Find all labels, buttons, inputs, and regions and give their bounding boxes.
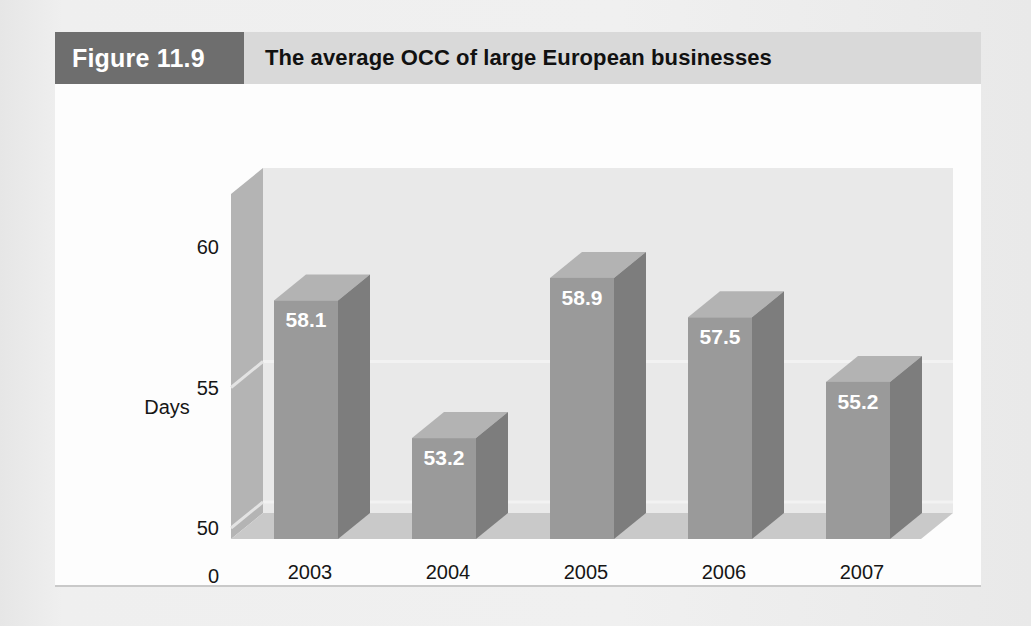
bar-side-face-2003 — [338, 274, 370, 539]
y-tick-label-0: 0 — [208, 565, 219, 585]
y-axis-title: Days — [144, 396, 190, 418]
bar-front-face-2003 — [274, 300, 338, 539]
x-tick-label-2004: 2004 — [426, 561, 471, 583]
figure-number-badge: Figure 11.9 — [55, 32, 244, 84]
bar-value-label-2004: 53.2 — [424, 446, 465, 469]
figure-container: Figure 11.9 The average OCC of large Eur… — [55, 32, 981, 585]
bar-2007 — [826, 356, 922, 539]
figure-title: The average OCC of large European busine… — [265, 45, 772, 71]
x-tick-label-2005: 2005 — [564, 561, 609, 583]
y-tick-label-60: 60 — [197, 236, 219, 258]
bar-value-label-2006: 57.5 — [700, 325, 741, 348]
bar-value-label-2003: 58.1 — [286, 308, 327, 331]
figure-number-label: Figure 11.9 — [72, 44, 205, 73]
figure-header: Figure 11.9 The average OCC of large Eur… — [55, 32, 981, 84]
y-tick-label-55: 55 — [197, 377, 219, 399]
figure-title-bar: The average OCC of large European busine… — [244, 32, 981, 84]
figure-panel: 58.153.258.957.555.2 6055500 20032004200… — [55, 84, 981, 585]
bar-front-face-2006 — [688, 317, 752, 539]
x-tick-label-2007: 2007 — [840, 561, 885, 583]
bar-value-label-2007: 55.2 — [838, 390, 879, 413]
left-wall-face — [231, 168, 263, 539]
bar-value-label-2005: 58.9 — [562, 286, 603, 309]
x-tick-label-2006: 2006 — [702, 561, 747, 583]
bar-side-face-2005 — [614, 252, 646, 539]
bar-2004 — [412, 412, 508, 539]
bar-side-face-2006 — [752, 291, 784, 539]
bar-front-face-2005 — [550, 278, 614, 539]
chart-left-wall — [231, 168, 263, 539]
chart-svg: 58.153.258.957.555.2 6055500 20032004200… — [55, 84, 981, 585]
y-axis-tick-labels: 6055500 — [197, 236, 219, 585]
bar-side-face-2007 — [890, 356, 922, 539]
x-axis-tick-labels: 20032004200520062007 — [288, 561, 885, 583]
x-tick-label-2003: 2003 — [288, 561, 333, 583]
bar-chart: 58.153.258.957.555.2 6055500 20032004200… — [55, 84, 981, 585]
y-tick-label-50: 50 — [197, 517, 219, 539]
